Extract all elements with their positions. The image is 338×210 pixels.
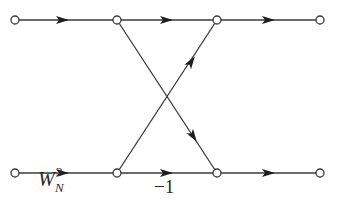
arrow-icon xyxy=(186,129,200,144)
minus-one-label: −1 xyxy=(154,176,174,198)
node-out-top xyxy=(316,16,324,24)
twiddle-subscript: N xyxy=(55,180,64,196)
node-mid2-bot xyxy=(213,169,221,177)
node-in-top xyxy=(11,16,19,24)
node-out-bot xyxy=(316,169,324,177)
twiddle-base: W xyxy=(38,168,55,190)
node-mid1-bot xyxy=(113,169,121,177)
twiddle-factor-label: W 3 N xyxy=(38,168,55,191)
twiddle-exponent: 3 xyxy=(56,164,63,180)
node-mid1-top xyxy=(113,16,121,24)
node-mid2-top xyxy=(213,16,221,24)
node-in-bot xyxy=(11,169,19,177)
